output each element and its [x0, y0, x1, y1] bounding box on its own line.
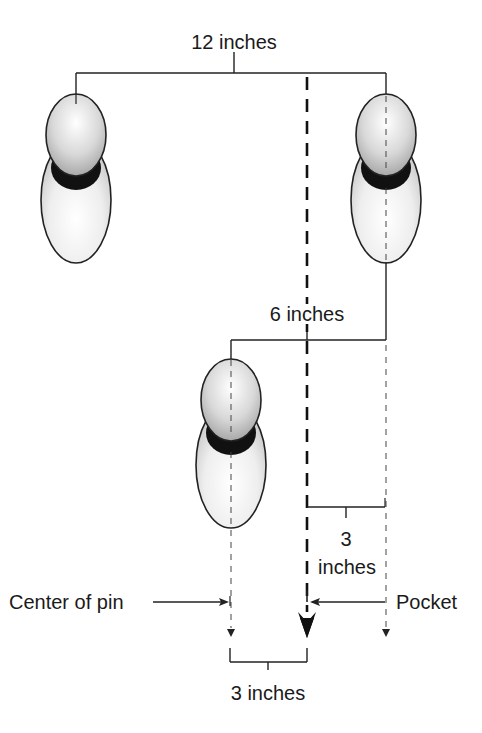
top-bracket	[76, 52, 386, 96]
offset-bracket	[307, 498, 385, 518]
pin-front	[196, 359, 266, 528]
pin-left	[41, 94, 111, 263]
pocket-arrow	[307, 590, 385, 606]
center-pin-line	[227, 530, 235, 637]
ball-path-line	[298, 77, 316, 638]
pin-right	[351, 94, 421, 263]
label-center-of-pin: Center of pin	[9, 592, 124, 612]
bottom-bracket	[230, 648, 307, 670]
label-6-inches: 6 inches	[251, 304, 363, 324]
label-12-inches: 12 inches	[174, 32, 294, 52]
center-of-pin-arrow	[153, 596, 230, 606]
bowling-pin-diagram: 12 inches 6 inches 3 inches Center of pi…	[0, 0, 482, 733]
label-offset-unit: inches	[311, 557, 383, 577]
label-bottom-3-inches: 3 inches	[210, 683, 326, 703]
label-offset-number: 3	[316, 529, 376, 549]
diagram-canvas	[0, 0, 482, 733]
label-pocket: Pocket	[396, 592, 457, 612]
pocket-line	[382, 345, 390, 637]
